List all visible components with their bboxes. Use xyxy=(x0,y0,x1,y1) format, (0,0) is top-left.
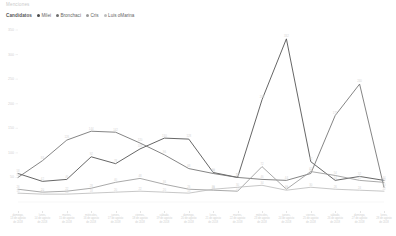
x-axis-tick xyxy=(335,211,336,213)
data-point-label: 332 xyxy=(284,34,289,38)
data-point-label: 18 xyxy=(16,189,20,193)
x-axis-tick-label: jueves, 24 de agosto de 2018 xyxy=(275,214,298,224)
y-axis-tick-label: 300 xyxy=(2,53,14,57)
x-axis-tick xyxy=(384,211,385,213)
x-axis-tick-label: viernes, 25 de agosto de 2018 xyxy=(299,214,322,224)
x-axis-tick xyxy=(262,211,263,213)
data-point-label: 50 xyxy=(236,173,240,177)
data-point-label: 22 xyxy=(138,187,142,191)
data-point-label: 20 xyxy=(114,188,118,192)
data-point-label: 128 xyxy=(186,134,191,138)
data-point-label: 120 xyxy=(138,138,143,142)
x-axis-tick-label: sábado, 26 de agosto de 2018 xyxy=(324,214,347,224)
data-point-label: 44 xyxy=(285,176,289,180)
x-axis-tick xyxy=(18,211,19,213)
legend-label: Milei xyxy=(42,13,51,18)
data-point-label: 84 xyxy=(41,156,45,160)
chart-title: Menciones xyxy=(6,2,30,7)
data-point-label: 240 xyxy=(357,79,362,83)
x-axis-tick-label: martes, 15 de agosto de 2018 xyxy=(55,214,78,224)
legend-item-bronchaci[interactable]: Bronchaci xyxy=(56,13,81,18)
legend-item-luis[interactable]: Luis oMarina xyxy=(104,13,135,18)
x-axis: domingo, 13 de agosto de 2018lunes, 14 d… xyxy=(0,211,392,236)
data-point-label: 42 xyxy=(41,177,45,181)
legend-color-swatch xyxy=(37,14,40,17)
data-point-label: 58 xyxy=(212,169,216,173)
x-axis-tick xyxy=(140,211,141,213)
data-point-label: 62 xyxy=(309,167,313,171)
y-axis-tick-label: 200 xyxy=(2,102,14,106)
data-point-label: 96 xyxy=(163,150,167,154)
x-axis-tick-label: lunes, 28 de agosto de 2018 xyxy=(373,214,396,224)
chart-legend: Candidatos Milei Bronchaci Cris Luis oMa… xyxy=(6,13,134,18)
data-point-label: 40 xyxy=(114,178,118,182)
data-point-label: 208 xyxy=(260,95,265,99)
data-point-label: 92 xyxy=(90,152,94,156)
x-axis-tick-label: martes, 22 de agosto de 2018 xyxy=(226,214,249,224)
data-point-label: 48 xyxy=(138,174,142,178)
data-point-label: 22 xyxy=(382,187,386,191)
y-axis-tick-label: 150 xyxy=(2,126,14,130)
x-axis-tick-label: domingo, 13 de agosto de 2018 xyxy=(7,214,30,224)
x-axis-tick xyxy=(286,211,287,213)
legend-item-milei[interactable]: Milei xyxy=(37,13,51,18)
x-axis-tick-label: sábado, 19 de agosto de 2018 xyxy=(153,214,176,224)
data-point-label: 68 xyxy=(187,164,191,168)
data-point-label: 144 xyxy=(89,127,94,131)
data-point-label: 44 xyxy=(358,176,362,180)
x-axis-tick xyxy=(67,211,68,213)
line-chart-svg: 5842469278108130128605020833282445244508… xyxy=(0,24,392,208)
data-point-label: 16 xyxy=(65,190,69,194)
x-axis-tick-label: jueves, 17 de agosto de 2018 xyxy=(104,214,127,224)
data-point-label: 30 xyxy=(309,183,313,187)
data-point-label: 72 xyxy=(260,162,264,166)
x-axis-tick-label: lunes, 21 de agosto de 2018 xyxy=(202,214,225,224)
data-point-label: 108 xyxy=(138,144,143,148)
data-point-label: 130 xyxy=(162,134,167,138)
x-axis-tick-label: domingo, 20 de agosto de 2018 xyxy=(177,214,200,224)
x-axis-tick xyxy=(91,211,92,213)
x-axis-tick xyxy=(116,211,117,213)
data-point-label: 34 xyxy=(260,181,264,185)
legend-color-swatch xyxy=(56,14,59,17)
legend-color-swatch xyxy=(104,14,107,17)
data-point-label: 16 xyxy=(41,190,45,194)
data-point-label: 50 xyxy=(16,173,20,177)
data-point-label: 30 xyxy=(236,183,240,187)
legend-label: Luis oMarina xyxy=(108,13,134,18)
data-point-label: 36 xyxy=(163,180,167,184)
data-point-label: 82 xyxy=(309,157,313,161)
data-point-label: 54 xyxy=(334,171,338,175)
x-axis-tick-label: miércoles, 23 de agosto de 2018 xyxy=(251,214,274,224)
legend-item-cris[interactable]: Cris xyxy=(86,13,99,18)
data-point-label: 24 xyxy=(285,186,289,190)
data-point-label: 78 xyxy=(114,159,118,163)
x-axis-tick xyxy=(42,211,43,213)
x-axis-tick xyxy=(311,211,312,213)
data-point-label: 176 xyxy=(333,111,338,115)
x-axis-tick-label: domingo, 27 de agosto de 2018 xyxy=(348,214,371,224)
y-axis-tick-label: 50 xyxy=(2,175,14,179)
data-point-label: 24 xyxy=(358,186,362,190)
plot-area: 5842469278108130128605020833282445244508… xyxy=(0,24,392,208)
data-point-label: 18 xyxy=(187,189,191,193)
legend-color-swatch xyxy=(86,14,89,17)
data-point-label: 46 xyxy=(260,175,264,179)
data-point-label: 40 xyxy=(382,178,386,182)
data-point-label: 142 xyxy=(113,128,118,132)
x-axis-tick-label: miércoles, 16 de agosto de 2018 xyxy=(80,214,103,224)
y-axis-tick-label: 350 xyxy=(2,28,14,32)
data-point-label: 26 xyxy=(212,185,216,189)
legend-label: Bronchaci xyxy=(60,13,80,18)
legend-label: Cris xyxy=(90,13,98,18)
x-axis-tick-label: viernes, 18 de agosto de 2018 xyxy=(129,214,152,224)
legend-title: Candidatos xyxy=(6,13,32,18)
data-point-label: 28 xyxy=(90,184,94,188)
y-axis-tick-label: 100 xyxy=(2,151,14,155)
x-axis-tick-label: lunes, 14 de agosto de 2018 xyxy=(31,214,54,224)
x-axis-tick xyxy=(213,211,214,213)
data-point-label: 44 xyxy=(334,176,338,180)
data-point-label: 26 xyxy=(334,185,338,189)
data-point-label: 126 xyxy=(64,135,69,139)
